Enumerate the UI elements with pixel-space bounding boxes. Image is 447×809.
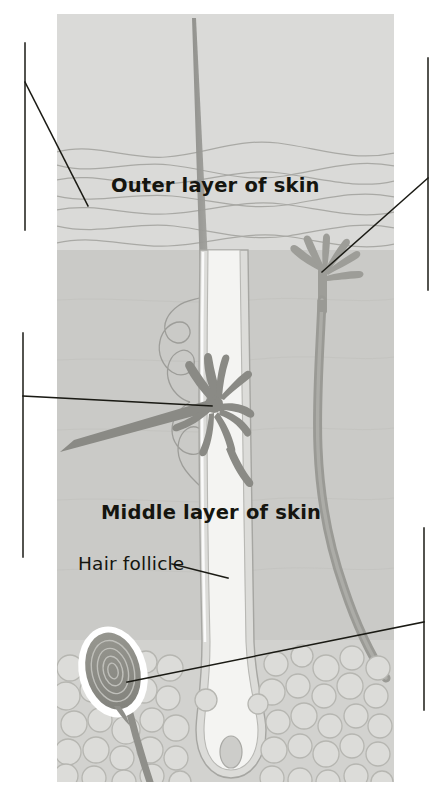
label-hair-follicle: Hair follicle [78, 553, 184, 574]
panel-contents [52, 14, 394, 794]
epidermis-layer [57, 14, 394, 250]
label-outer-layer-of-skin: Outer layer of skin [111, 174, 320, 197]
diagram-panel [52, 14, 394, 794]
label-middle-layer-of-skin: Middle layer of skin [101, 501, 321, 524]
skin-cross-section-diagram: Outer layer of skin Middle layer of skin… [0, 0, 447, 809]
dermal-papilla [220, 736, 242, 768]
figure-container: Outer layer of skin Middle layer of skin… [0, 0, 447, 809]
